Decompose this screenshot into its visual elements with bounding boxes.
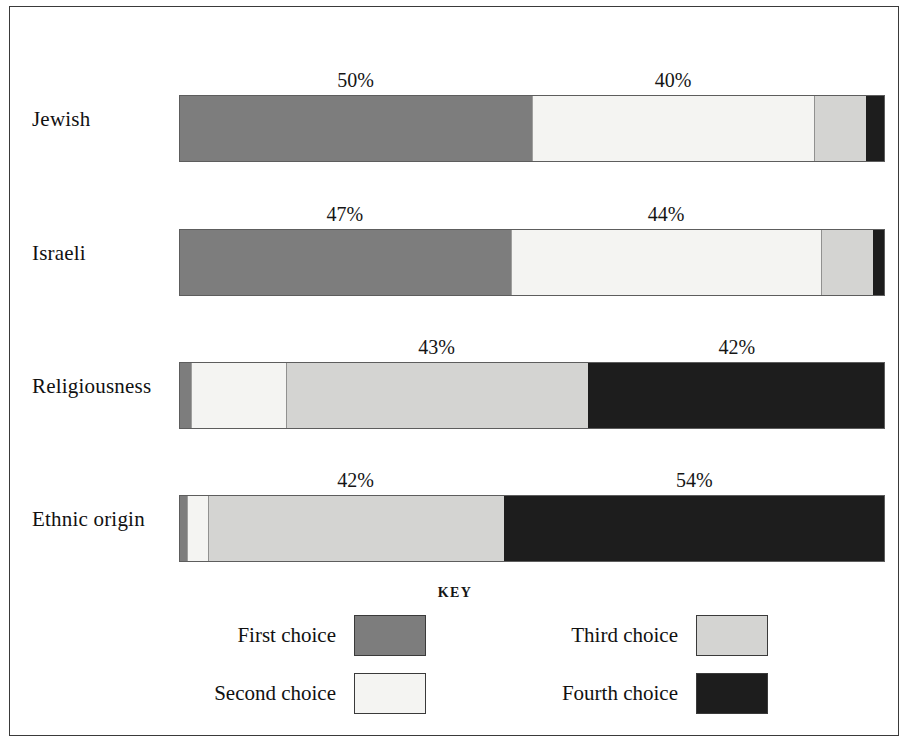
bar-segment-first — [180, 496, 187, 561]
legend-title: KEY — [10, 585, 900, 601]
chart-figure-frame: Jewish50%40%Israeli47%44%Religiousness43… — [9, 6, 899, 736]
bar-category-label: Religiousness — [32, 374, 151, 399]
bar-segment-second — [511, 230, 821, 295]
stacked-bar-track — [179, 229, 885, 296]
bar-segment-second — [532, 96, 814, 161]
stacked-bar-track — [179, 362, 885, 429]
bar-value-label: 42% — [337, 469, 374, 492]
bar-category-label: Jewish — [32, 107, 90, 132]
legend-item[interactable]: Fourth choice — [482, 671, 768, 715]
bar-value-label: 47% — [327, 203, 364, 226]
bar-segment-third — [814, 96, 867, 161]
bar-value-label: 42% — [718, 336, 755, 359]
bar-segment-second — [191, 363, 286, 428]
legend-grid: First choiceSecond choiceThird choiceFou… — [110, 611, 800, 721]
legend-item[interactable]: Second choice — [140, 671, 426, 715]
bar-value-label: 40% — [655, 69, 692, 92]
bar-segment-fourth — [866, 96, 884, 161]
bar-segment-second — [187, 496, 208, 561]
legend-swatch — [696, 673, 768, 714]
bar-value-label: 54% — [676, 469, 713, 492]
bar-group: Jewish50%40% — [10, 69, 898, 169]
bar-group: Religiousness43%42% — [10, 336, 898, 436]
legend-swatch — [354, 673, 426, 714]
stacked-bar-track — [179, 95, 885, 162]
legend-item-label: Third choice — [482, 623, 678, 648]
bar-segment-third — [821, 230, 874, 295]
bar-segment-first — [180, 363, 191, 428]
bar-segment-first — [180, 230, 511, 295]
bar-value-label: 44% — [648, 203, 685, 226]
legend-item[interactable]: Third choice — [482, 613, 768, 657]
stacked-bar-track — [179, 495, 885, 562]
bar-segment-first — [180, 96, 532, 161]
bar-segment-third — [286, 363, 589, 428]
bar-group: Israeli47%44% — [10, 203, 898, 303]
bar-value-label: 43% — [418, 336, 455, 359]
bar-segment-fourth — [504, 496, 884, 561]
legend-item[interactable]: First choice — [140, 613, 426, 657]
bar-category-label: Ethnic origin — [32, 507, 145, 532]
legend-swatch — [354, 615, 426, 656]
bar-segment-fourth — [588, 363, 884, 428]
bar-value-label: 50% — [337, 69, 374, 92]
legend-item-label: First choice — [140, 623, 336, 648]
legend-item-label: Fourth choice — [482, 681, 678, 706]
bar-group: Ethnic origin42%54% — [10, 469, 898, 569]
legend-item-label: Second choice — [140, 681, 336, 706]
bar-segment-third — [208, 496, 504, 561]
bar-category-label: Israeli — [32, 241, 86, 266]
legend-swatch — [696, 615, 768, 656]
chart-legend: KEY First choiceSecond choiceThird choic… — [10, 585, 900, 721]
bar-segment-fourth — [873, 230, 884, 295]
